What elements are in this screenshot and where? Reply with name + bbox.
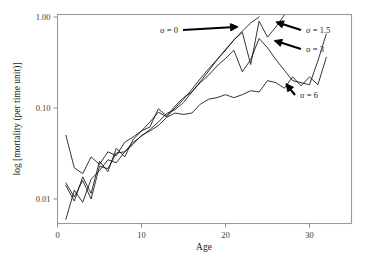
- series-annotation-label: σ = 1.5: [306, 25, 330, 35]
- annotation-arrow-shaft: [291, 90, 295, 95]
- x-tick-label: 20: [221, 230, 230, 240]
- mortality-log-chart: 0.010.101.00 0102030 σ = 0σ = 1.5σ = 3σ …: [0, 0, 365, 269]
- annotation-labels: σ = 0σ = 1.5σ = 3σ = 6: [160, 25, 330, 100]
- annotation-arrow-shaft: [283, 24, 301, 30]
- x-axis-tick-labels: 0102030: [55, 230, 313, 240]
- series-annotation-label: σ = 3: [306, 44, 324, 54]
- x-tick-label: 0: [55, 230, 59, 240]
- annotation-arrow-head: [274, 39, 282, 46]
- y-axis-ticks: [54, 17, 58, 199]
- annotation-arrow-shaft: [281, 43, 301, 49]
- y-tick-label: 1.00: [36, 12, 51, 22]
- x-axis-title: Age: [196, 242, 212, 252]
- x-tick-label: 10: [137, 230, 146, 240]
- y-tick-label: 0.10: [36, 103, 51, 113]
- data-curve-6: [66, 57, 326, 199]
- data-curve-1.5: [66, 15, 284, 174]
- data-curve-0: [66, 17, 259, 219]
- annotation-arrow-head: [230, 24, 238, 31]
- series-annotation-label: σ = 6: [300, 90, 318, 100]
- series-annotation-label: σ = 0: [160, 25, 178, 35]
- annotation-arrow-shaft: [183, 27, 231, 30]
- annotation-arrow-head: [276, 21, 284, 28]
- x-tick-label: 30: [305, 230, 314, 240]
- data-curve-3: [66, 34, 326, 201]
- y-axis-tick-labels: 0.010.101.00: [36, 12, 51, 204]
- figure-container: 0.010.101.00 0102030 σ = 0σ = 1.5σ = 3σ …: [0, 0, 365, 269]
- y-tick-label: 0.01: [36, 194, 51, 204]
- y-axis-title: log [mortality (per time unit)]: [12, 63, 23, 176]
- x-axis-ticks: [58, 224, 310, 228]
